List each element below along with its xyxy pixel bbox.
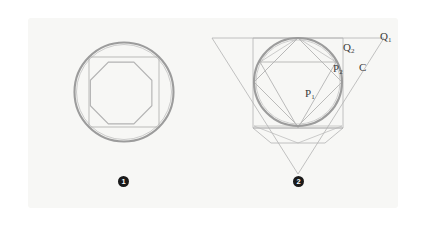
- figure-2-marker: 2: [293, 176, 304, 187]
- label-q2: Q2: [343, 42, 354, 53]
- screenshot-root: 1: [0, 0, 423, 226]
- label-c: C: [359, 62, 366, 73]
- label-p1: P1: [305, 88, 315, 99]
- figure-panel: 1: [28, 18, 398, 208]
- inscribed-square-shape: [89, 57, 159, 127]
- circumscribed-triangle-q1-shape: [212, 38, 384, 174]
- circle-c-shape-inner-echo: [256, 40, 340, 124]
- figure-2: Q1 Q2 C P2 P1 2: [198, 18, 398, 208]
- label-q1: Q1: [380, 31, 391, 42]
- inscribed-octagon-shape: [90, 62, 151, 124]
- circumscribed-q2-lower-band: [253, 128, 343, 143]
- figure-1-marker: 1: [118, 176, 129, 187]
- label-p2: P2: [333, 63, 343, 74]
- circle-c-shape: [254, 38, 342, 126]
